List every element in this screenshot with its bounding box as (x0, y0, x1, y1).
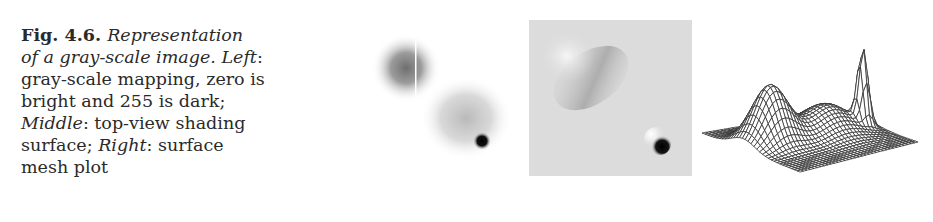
dark-spot (473, 132, 491, 150)
caption-line-5: Middle: top-view shading (21, 112, 341, 134)
caption-line-4: bright and 255 is dark; (21, 90, 341, 112)
dark-spot-shading (649, 133, 671, 155)
grayscale-mapping-image (350, 12, 520, 182)
caption-line-3: gray-scale mapping, zero is (21, 68, 341, 90)
caption-line-6: surface; Right: surface (21, 134, 341, 156)
surface-mesh-plot (700, 40, 933, 180)
figure-caption: Fig. 4.6. Representation of a gray-scale… (21, 24, 341, 178)
figure-label: Fig. 4.6. (21, 25, 107, 45)
shading-surface-image (529, 20, 692, 176)
caption-line-2: of a gray-scale image. Left: (21, 46, 341, 68)
gray-blob-dark (372, 34, 440, 102)
scan-line-artifact (415, 40, 417, 100)
caption-line-1: Fig. 4.6. Representation (21, 24, 341, 46)
gray-blob-large (420, 76, 512, 160)
caption-line-7: mesh plot (21, 156, 341, 178)
highlight-large (539, 30, 595, 82)
